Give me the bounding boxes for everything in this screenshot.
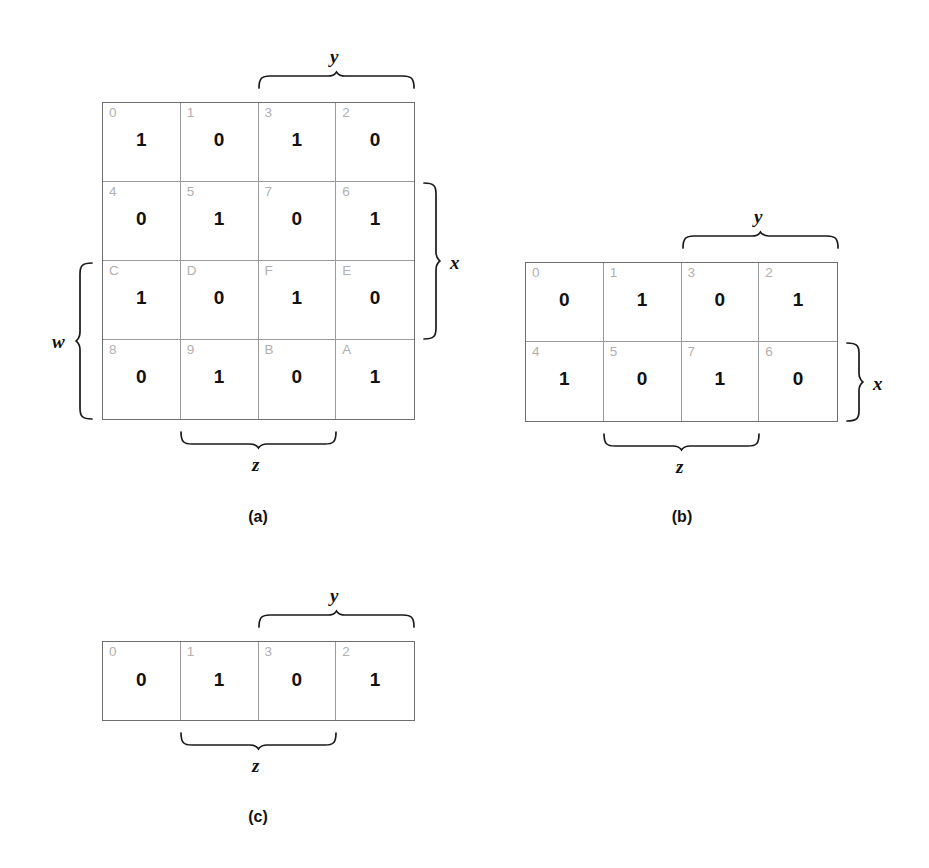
kmap-cell[interactable]: 5 0 [604,342,682,421]
kmap-cell-index: 0 [109,106,117,120]
kmap-cell-index: F [265,264,273,278]
kmap-cell-index: 3 [688,266,696,280]
kmap-cell[interactable]: 0 0 [103,642,181,720]
kmap-cell[interactable]: E 0 [336,261,414,340]
kmap-cell[interactable]: 5 1 [181,182,259,261]
kmap-cell[interactable]: 8 0 [103,340,181,419]
kmap-cell-value: 1 [181,209,258,228]
kmap-cell-value: 0 [259,367,336,386]
brace-label-z-map-c: z [252,756,259,775]
kmap-cell[interactable]: 0 1 [103,103,181,182]
kmap-cell-value: 1 [336,670,414,689]
kmap-cell-value: 0 [336,288,414,307]
kmap-cell-index: 9 [187,343,195,357]
kmap-grid-a: 0 1 1 0 3 1 2 0 4 0 5 1 7 0 6 1 [102,102,415,420]
kmap-cell-value: 0 [759,369,837,388]
kmap-cell-value: 1 [103,130,180,149]
kmap-cell[interactable]: 3 1 [259,103,337,182]
kmap-cell-value: 0 [336,130,414,149]
kmap-cell-index: 1 [610,266,618,280]
brace-y-map-a [258,72,415,88]
kmap-cell-index: D [187,264,197,278]
caption-map-a: (a) [208,509,308,525]
kmap-cell-index: A [342,343,351,357]
kmap-cell-value: 1 [259,130,336,149]
kmap-cell[interactable]: C 1 [103,261,181,340]
kmap-cell-index: 0 [532,266,540,280]
kmap-cell-value: 0 [526,290,603,309]
kmap-cell-value: 0 [604,369,681,388]
brace-label-x-map-b: x [873,374,883,393]
kmap-cell-value: 0 [259,209,336,228]
brace-z-map-b [603,434,760,450]
caption-map-c: (c) [208,809,308,825]
kmap-cell-value: 0 [682,290,759,309]
brace-label-y-map-c: y [330,586,338,605]
kmap-cell[interactable]: 3 0 [259,642,337,720]
brace-label-x-map-a: x [450,253,460,272]
brace-label-z-map-b: z [676,457,683,476]
kmap-cell[interactable]: 7 0 [259,182,337,261]
kmap-cell-value: 1 [259,288,336,307]
kmap-cell-value: 0 [181,130,258,149]
kmap-cell[interactable]: A 1 [336,340,414,419]
kmap-cell[interactable]: 4 0 [103,182,181,261]
kmap-cell-index: 7 [265,185,273,199]
kmap-cell-index: 4 [532,345,540,359]
kmap-cell-index: E [342,264,351,278]
kmap-cell-index: 2 [765,266,773,280]
kmap-cell-value: 0 [259,670,336,689]
kmap-cell-value: 0 [103,367,180,386]
kmap-cell-index: 6 [342,185,350,199]
kmap-cell-index: 6 [765,345,773,359]
kmap-cell[interactable]: 4 1 [526,342,604,421]
brace-x-map-b [847,342,863,422]
kmap-cell[interactable]: 7 1 [682,342,760,421]
kmap-cell-index: 0 [109,645,117,659]
kmap-cell[interactable]: B 0 [259,340,337,419]
kmap-cell-index: 1 [187,106,195,120]
kmap-cell-index: C [109,264,119,278]
kmap-cell[interactable]: 6 0 [759,342,837,421]
kmap-cell-index: 3 [265,106,273,120]
kmap-cell[interactable]: 2 1 [759,263,837,342]
kmap-cell-index: 1 [187,645,195,659]
brace-y-map-c [258,611,415,627]
brace-label-y-map-b: y [754,207,762,226]
kmap-cell-value: 1 [759,290,837,309]
kmap-cell-value: 0 [103,209,180,228]
kmap-cell-value: 1 [682,369,759,388]
kmap-cell-value: 1 [181,367,258,386]
kmap-cell[interactable]: 0 0 [526,263,604,342]
kmap-cell-value: 0 [181,288,258,307]
kmap-cell-value: 0 [103,670,180,689]
kmap-cell[interactable]: 1 0 [181,103,259,182]
brace-z-map-c [180,733,337,749]
kmap-cell[interactable]: 1 1 [604,263,682,342]
kmap-cell[interactable]: 2 1 [336,642,414,720]
kmap-cell-value: 1 [336,367,414,386]
brace-y-map-b [682,232,839,248]
kmap-cell-value: 1 [604,290,681,309]
kmap-cell[interactable]: 2 0 [336,103,414,182]
kmap-cell[interactable]: 6 1 [336,182,414,261]
kmap-cell[interactable]: F 1 [259,261,337,340]
kmap-cell-index: 5 [187,185,195,199]
caption-map-b: (b) [632,509,732,525]
kmap-cell[interactable]: 9 1 [181,340,259,419]
brace-label-y-map-a: y [330,47,338,66]
kmap-cell-index: 8 [109,343,117,357]
kmap-cell-index: 3 [265,645,273,659]
brace-x-map-a [424,182,440,340]
kmap-cell-value: 1 [336,209,414,228]
brace-label-z-map-a: z [252,455,259,474]
kmap-cell-index: 4 [109,185,117,199]
kmap-cell-value: 1 [181,670,258,689]
kmap-cell[interactable]: D 0 [181,261,259,340]
kmap-cell-index: 7 [688,345,696,359]
kmap-cell-index: 5 [610,345,618,359]
brace-w-map-a [76,262,92,420]
kmap-cell-value: 1 [103,288,180,307]
kmap-cell[interactable]: 3 0 [682,263,760,342]
kmap-cell[interactable]: 1 1 [181,642,259,720]
